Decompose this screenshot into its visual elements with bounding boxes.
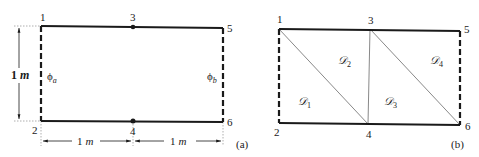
node-label-3: 3 <box>130 11 136 23</box>
node-label-4-b: 4 <box>366 128 372 140</box>
diagonal-3-6 <box>370 29 460 125</box>
vertical-dimension-label: 1m <box>11 68 29 82</box>
domain-label-4: 𝒟4 <box>430 54 443 69</box>
node-label-6-b: 6 <box>465 120 471 132</box>
domain-label-2: 𝒟2 <box>338 54 351 69</box>
node-label-3-b: 3 <box>368 14 374 26</box>
figure-b: 1 3 5 2 4 6 𝒟1 𝒟2 𝒟3 𝒟4 (b) <box>274 13 471 151</box>
h-dim-right-label: 1m <box>170 135 187 147</box>
node-3-dot <box>131 25 136 30</box>
diagonal-1-4 <box>279 29 368 124</box>
domain-label-3: 𝒟3 <box>384 95 397 110</box>
node-label-5-b: 5 <box>464 23 470 35</box>
phi-b-label: ϕb <box>207 70 217 85</box>
node-label-1: 1 <box>40 11 46 23</box>
h-dim-left-label: 1m <box>77 135 94 147</box>
node-label-2: 2 <box>32 124 38 136</box>
node-label-4: 4 <box>130 125 136 137</box>
caption-a: (a) <box>236 138 249 151</box>
caption-b: (b) <box>451 138 464 151</box>
top-edge-b <box>279 29 460 31</box>
node-label-5: 5 <box>227 22 233 34</box>
node-4-dot <box>131 119 136 124</box>
figure-a: 1 3 5 2 4 6 1m 1m 1m ϕa ϕb (a) <box>11 11 249 151</box>
node-label-2-b: 2 <box>274 126 280 138</box>
phi-a-label: ϕa <box>47 70 57 85</box>
vertical-3-4 <box>368 29 370 124</box>
figure-canvas: 1 3 5 2 4 6 1m 1m 1m ϕa ϕb (a) <box>0 0 479 157</box>
node-label-1-b: 1 <box>277 13 283 25</box>
node-label-6: 6 <box>227 116 233 128</box>
bottom-edge-b <box>279 123 460 125</box>
domain-label-1: 𝒟1 <box>298 95 311 110</box>
